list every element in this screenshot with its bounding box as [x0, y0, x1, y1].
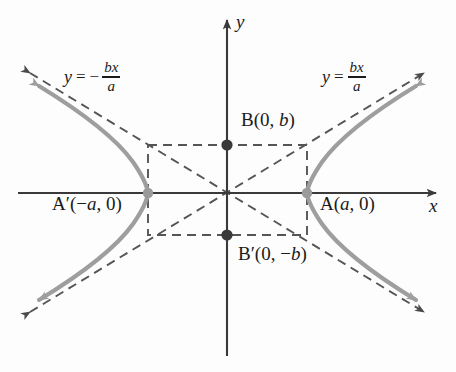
- hyperbola-figure: y = − bx a y = bx a B(0, b) B′(0, −b) A′…: [0, 0, 456, 372]
- point-label-A-prime-post: , 0): [96, 193, 121, 214]
- point-label-A-post: , 0): [350, 193, 375, 214]
- equation-right-denominator: a: [351, 78, 363, 94]
- y-axis-label: y: [236, 12, 244, 31]
- point-label-B-pre: B(0,: [241, 109, 279, 130]
- equation-label-right-asymptote: y = bx a: [322, 60, 366, 94]
- equation-label-left-asymptote: y = − bx a: [64, 60, 120, 94]
- point-A-prime-marker: [143, 188, 153, 198]
- hyperbola-svg-canvas: [0, 0, 456, 372]
- point-A-marker: [302, 188, 312, 198]
- point-label-B-prime-pre: B′(0, −: [238, 243, 291, 264]
- point-label-B-prime: B′(0, −b): [238, 244, 307, 263]
- x-axis-label: x: [429, 196, 437, 215]
- point-label-B-prime-var: b: [291, 243, 301, 264]
- point-label-B-prime-post: ): [300, 243, 306, 264]
- point-label-B-var: b: [279, 109, 289, 130]
- equation-left-fraction: bx a: [102, 60, 120, 94]
- equation-left-sign: −: [90, 68, 101, 85]
- point-label-B-post: ): [289, 109, 295, 130]
- equation-left-denominator: a: [106, 78, 118, 94]
- equation-right-equals: =: [332, 68, 346, 85]
- equation-right-fraction: bx a: [348, 60, 366, 94]
- point-B-prime-marker: [221, 229, 232, 240]
- point-label-A-var: a: [340, 193, 350, 214]
- point-B-marker: [221, 139, 232, 150]
- equation-right-lead: y: [322, 68, 330, 86]
- point-label-A-prime-var: a: [87, 193, 97, 214]
- point-label-A-prime: A′(−a, 0): [52, 194, 122, 213]
- point-label-B: B(0, b): [241, 110, 295, 129]
- equation-left-numerator: bx: [102, 60, 120, 76]
- point-label-A-pre: A(: [320, 193, 340, 214]
- point-label-A-prime-pre: A′(−: [52, 193, 87, 214]
- equation-left-equals: =: [74, 68, 88, 85]
- equation-right-numerator: bx: [348, 60, 366, 76]
- point-label-A: A(a, 0): [320, 194, 375, 213]
- equation-left-lead: y: [64, 68, 72, 86]
